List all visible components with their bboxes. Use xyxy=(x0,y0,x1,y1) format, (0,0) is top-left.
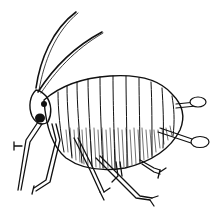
abdomen xyxy=(44,76,183,170)
aphid-drawing xyxy=(0,0,220,218)
aphid-illustration xyxy=(0,0,220,218)
cornicles xyxy=(158,97,209,148)
head xyxy=(30,90,51,124)
eye-icon xyxy=(35,114,45,123)
antennae xyxy=(36,12,103,93)
